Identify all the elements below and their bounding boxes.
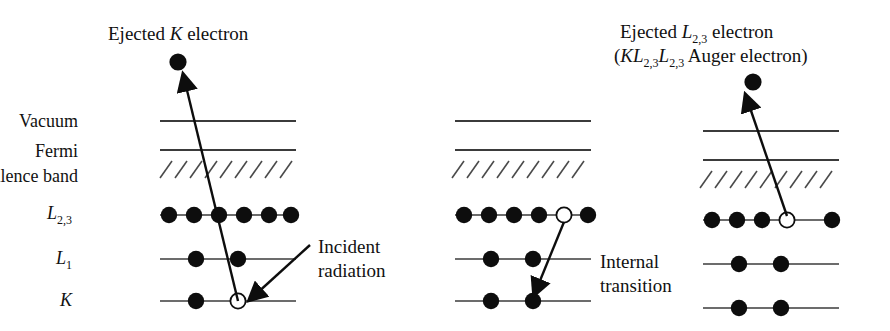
electron-dot — [483, 251, 499, 267]
label-valence-band: Valence band — [0, 166, 78, 186]
electron-dot — [186, 207, 202, 223]
left-caption-prefix: Ejected — [108, 23, 170, 44]
figure-canvas: Ejected K electron Ejected L2,3 electron… — [0, 0, 890, 331]
auger-l-second: L — [658, 45, 670, 66]
electron-dot — [161, 207, 177, 223]
right-panel-caption: Ejected L2,3 electron (KL2,3L2,3 Auger e… — [614, 21, 808, 70]
electron-dot — [236, 207, 252, 223]
electron-dot — [261, 207, 277, 223]
row-labels: Vacuum Fermi Valence band L2,3 L1 K — [0, 111, 78, 310]
electron-dot — [456, 207, 472, 223]
svg-text:(KL2,3L2,3 Auger electron): (KL2,3L2,3 Auger electron) — [614, 45, 808, 70]
right-caption-prefix: Ejected — [620, 21, 682, 42]
label-l23: L2,3 — [46, 203, 72, 227]
electron-dot — [188, 251, 204, 267]
internal-transition-label-line1: Internal — [600, 251, 659, 272]
electron-dot — [731, 300, 747, 316]
internal-transition-label-line2: transition — [600, 275, 672, 296]
svg-text:Ejected K electron: Ejected K electron — [108, 23, 249, 44]
valence-band-hatching-middle — [452, 161, 584, 178]
label-k: K — [59, 290, 73, 310]
electron-dot — [731, 256, 747, 272]
auger-l-first: L — [632, 45, 644, 66]
internal-transition-arrow — [537, 222, 564, 288]
electron-dot — [773, 300, 789, 316]
left-panel-caption: Ejected K electron — [108, 23, 249, 44]
electron-hole — [556, 207, 571, 222]
panel-middle: Internal transition — [452, 121, 672, 309]
right-caption-suffix: electron — [707, 21, 773, 42]
left-caption-suffix: electron — [182, 23, 248, 44]
incident-radiation-label-line2: radiation — [318, 260, 386, 281]
right-caption-shell: L — [681, 21, 693, 42]
valence-band-hatching-right — [700, 171, 832, 188]
electron-dot — [580, 207, 596, 223]
electron-dot — [188, 293, 204, 309]
auger-tail: Auger electron) — [684, 45, 807, 67]
electron-dot — [773, 256, 789, 272]
electron-dot — [283, 207, 299, 223]
ejected-auger-electron-trajectory — [748, 102, 787, 216]
electron-dot — [754, 212, 770, 228]
ejected-electron-trajectory-left — [185, 82, 238, 301]
label-fermi: Fermi — [35, 141, 78, 161]
electron-dot — [483, 293, 499, 309]
electron-dot — [230, 251, 246, 267]
label-l1: L1 — [55, 248, 72, 272]
incident-radiation-arrow — [255, 245, 310, 295]
label-vacuum: Vacuum — [19, 111, 78, 131]
ejected-auger-electron-dot — [744, 73, 761, 90]
incident-radiation-label-line1: Incident — [318, 236, 381, 257]
electron-dot — [824, 212, 840, 228]
valence-band-hatching-left — [160, 161, 292, 178]
right-caption-shell-sub: 2,3 — [692, 32, 707, 46]
svg-text:Ejected L2,3 electron: Ejected L2,3 electron — [620, 21, 774, 46]
ejected-electron-dot-left — [169, 53, 186, 70]
panel-right — [700, 73, 840, 316]
auger-l-first-sub: 2,3 — [644, 56, 659, 70]
electron-dot — [525, 251, 541, 267]
electron-dot — [531, 207, 547, 223]
electron-dot — [506, 207, 522, 223]
electron-dot — [525, 293, 541, 309]
electron-dot — [481, 207, 497, 223]
electron-dot — [704, 212, 720, 228]
panel-left: Incident radiation — [160, 53, 386, 309]
auger-l-second-sub: 2,3 — [669, 56, 684, 70]
electron-dot — [729, 212, 745, 228]
